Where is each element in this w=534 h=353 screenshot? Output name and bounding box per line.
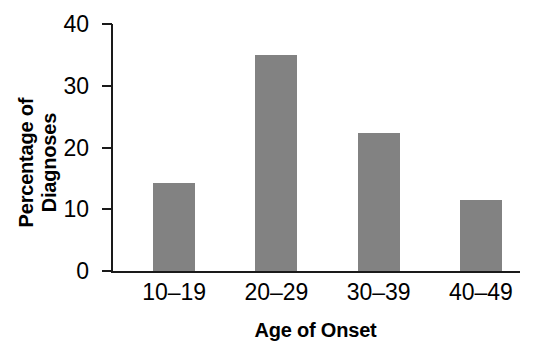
- y-tick-label: 0: [76, 260, 89, 283]
- x-axis-tick-labels: 10–1920–2930–3940–49: [111, 281, 520, 311]
- plot-area: 010203040: [111, 24, 520, 273]
- y-axis-title-line-1: Percentage of: [15, 43, 38, 283]
- bar: [358, 133, 400, 271]
- bar: [255, 55, 297, 271]
- y-tick-label: 10: [63, 198, 89, 221]
- y-axis-title-line-2: Diagnoses: [38, 43, 61, 283]
- y-tick-label: 20: [63, 136, 89, 159]
- bar: [153, 183, 195, 271]
- y-tick-label: 40: [63, 13, 89, 36]
- bar-chart-figure: Percentage of Diagnoses 010203040 10–192…: [0, 0, 534, 353]
- bars-layer: [111, 24, 520, 271]
- x-axis-line: [111, 271, 520, 273]
- bar: [460, 200, 502, 271]
- x-axis-title: Age of Onset: [111, 320, 520, 340]
- y-axis-title: Percentage of Diagnoses: [15, 43, 60, 283]
- y-tick-label: 30: [63, 74, 89, 97]
- x-tick-label: 40–49: [421, 281, 534, 304]
